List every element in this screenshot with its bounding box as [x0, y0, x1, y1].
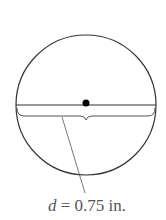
label-value: = 0.75 in.	[57, 196, 127, 215]
diagram-graphic	[0, 0, 166, 220]
label-variable: d	[48, 196, 57, 215]
pointer-line	[62, 117, 85, 193]
diameter-brace	[17, 108, 155, 120]
center-point	[83, 100, 90, 107]
circle-diagram: d = 0.75 in.	[0, 0, 166, 220]
diameter-label: d = 0.75 in.	[48, 196, 126, 216]
